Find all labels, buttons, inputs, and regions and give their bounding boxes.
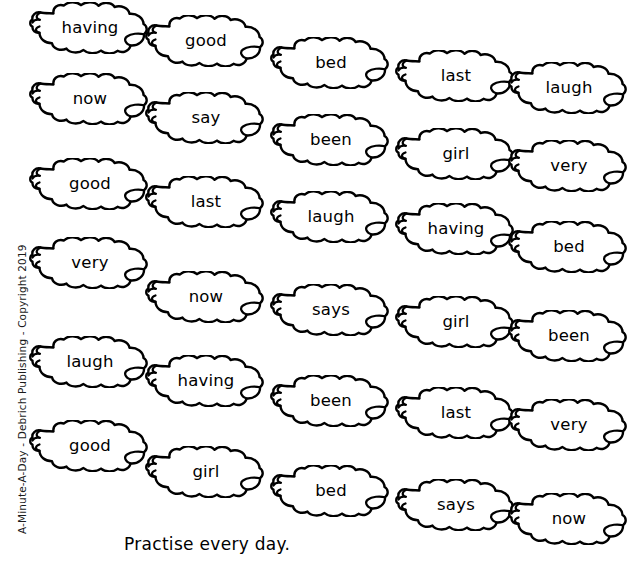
cloud-shape-icon: [267, 114, 395, 166]
cloud-shape-icon: [392, 50, 520, 102]
cloud-shape-icon: [267, 191, 395, 243]
word-cloud[interactable]: been: [505, 310, 629, 362]
word-cloud[interactable]: having: [26, 2, 154, 54]
word-cloud[interactable]: bed: [267, 465, 395, 517]
word-cloud[interactable]: bed: [505, 221, 629, 273]
word-cloud[interactable]: girl: [142, 446, 270, 498]
cloud-shape-icon: [142, 271, 270, 323]
cloud-shape-icon: [142, 176, 270, 228]
worksheet-page: A-Minute-A-Day - Debrich Publishing - Co…: [0, 0, 629, 562]
cloud-shape-icon: [142, 15, 270, 67]
word-cloud[interactable]: having: [392, 203, 520, 255]
word-cloud[interactable]: says: [392, 479, 520, 531]
cloud-shape-icon: [26, 336, 154, 388]
cloud-shape-icon: [26, 420, 154, 472]
cloud-shape-icon: [505, 221, 629, 273]
word-cloud[interactable]: last: [392, 50, 520, 102]
cloud-shape-icon: [392, 387, 520, 439]
word-cloud[interactable]: good: [142, 15, 270, 67]
cloud-shape-icon: [26, 158, 154, 210]
word-cloud[interactable]: say: [142, 92, 270, 144]
word-cloud[interactable]: girl: [392, 296, 520, 348]
cloud-shape-icon: [392, 479, 520, 531]
word-cloud[interactable]: very: [505, 140, 629, 192]
cloud-shape-icon: [392, 203, 520, 255]
cloud-shape-icon: [267, 465, 395, 517]
word-cloud[interactable]: laugh: [26, 336, 154, 388]
cloud-shape-icon: [142, 446, 270, 498]
word-cloud-field: havinggoodbedlastlaughnowsaybeengirlvery…: [0, 0, 629, 520]
word-cloud[interactable]: now: [26, 73, 154, 125]
cloud-shape-icon: [505, 140, 629, 192]
cloud-shape-icon: [142, 92, 270, 144]
cloud-shape-icon: [392, 128, 520, 180]
word-cloud[interactable]: very: [26, 237, 154, 289]
word-cloud[interactable]: having: [142, 355, 270, 407]
word-cloud[interactable]: now: [505, 493, 629, 545]
word-cloud[interactable]: now: [142, 271, 270, 323]
word-cloud[interactable]: says: [267, 284, 395, 336]
word-cloud[interactable]: been: [267, 375, 395, 427]
cloud-shape-icon: [505, 62, 629, 114]
cloud-shape-icon: [267, 284, 395, 336]
word-cloud[interactable]: last: [142, 176, 270, 228]
word-cloud[interactable]: laugh: [505, 62, 629, 114]
word-cloud[interactable]: last: [392, 387, 520, 439]
word-cloud[interactable]: good: [26, 420, 154, 472]
word-cloud[interactable]: bed: [267, 37, 395, 89]
cloud-shape-icon: [26, 73, 154, 125]
cloud-shape-icon: [267, 37, 395, 89]
word-cloud[interactable]: laugh: [267, 191, 395, 243]
cloud-shape-icon: [392, 296, 520, 348]
cloud-shape-icon: [26, 2, 154, 54]
word-cloud[interactable]: girl: [392, 128, 520, 180]
cloud-shape-icon: [505, 493, 629, 545]
footer-instruction: Practise every day.: [124, 534, 290, 554]
cloud-shape-icon: [26, 237, 154, 289]
cloud-shape-icon: [505, 310, 629, 362]
cloud-shape-icon: [505, 399, 629, 451]
cloud-shape-icon: [267, 375, 395, 427]
word-cloud[interactable]: very: [505, 399, 629, 451]
cloud-shape-icon: [142, 355, 270, 407]
word-cloud[interactable]: been: [267, 114, 395, 166]
word-cloud[interactable]: good: [26, 158, 154, 210]
